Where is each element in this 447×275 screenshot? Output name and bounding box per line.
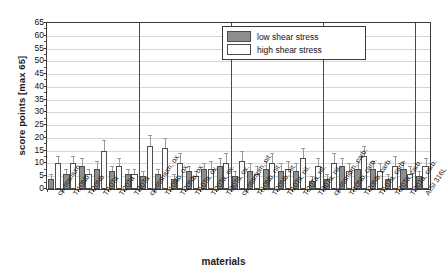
error-bar-cap	[332, 153, 336, 154]
y-tick-label: 60	[4, 31, 44, 39]
bar-low-shear	[48, 179, 54, 189]
error-bar	[165, 138, 166, 148]
error-bar	[226, 153, 227, 163]
error-bar-cap	[148, 135, 152, 136]
error-bar	[342, 158, 343, 166]
y-tick-label: 55	[4, 44, 44, 52]
error-bar-cap	[156, 169, 160, 170]
error-bar-cap	[240, 151, 244, 152]
y-tick-label: 30	[4, 107, 44, 115]
error-bar-cap	[141, 171, 145, 172]
legend-label-low: low shear stress	[257, 32, 318, 42]
bar-chart: score points [max 65] 051015202530354045…	[0, 0, 447, 275]
y-tick-label: 65	[4, 18, 44, 26]
y-axis-ticks: 05101520253035404550556065	[0, 22, 44, 190]
y-tick-label: 0	[4, 184, 44, 192]
error-bar-cap	[248, 163, 252, 164]
error-bar-cap	[80, 158, 84, 159]
legend-item-high: high shear stress	[227, 43, 361, 56]
error-bar	[303, 148, 304, 158]
error-bar	[104, 140, 105, 150]
legend-label-high: high shear stress	[257, 45, 322, 55]
error-bar-cap	[133, 169, 137, 170]
error-bar-cap	[110, 166, 114, 167]
error-bar	[220, 158, 221, 166]
error-bar	[97, 161, 98, 169]
error-bar-cap	[224, 153, 228, 154]
error-bar-cap	[49, 174, 53, 175]
error-bar-cap	[424, 158, 428, 159]
legend-swatch-low-icon	[227, 31, 251, 42]
error-bar-cap	[316, 158, 320, 159]
legend-swatch-high-icon	[227, 44, 251, 55]
error-bar-cap	[163, 138, 167, 139]
error-bar-cap	[218, 158, 222, 159]
y-tick-label: 15	[4, 146, 44, 154]
error-bar-cap	[56, 156, 60, 157]
error-bar-cap	[95, 161, 99, 162]
error-bar	[334, 153, 335, 163]
error-bar-cap	[102, 140, 106, 141]
error-bar-cap	[340, 158, 344, 159]
error-bar-cap	[87, 169, 91, 170]
error-bar-cap	[64, 169, 68, 170]
error-bar	[242, 151, 243, 161]
y-tick-label: 5	[4, 171, 44, 179]
y-tick-label: 20	[4, 133, 44, 141]
error-bar	[58, 156, 59, 164]
error-bar	[150, 135, 151, 145]
error-bar	[119, 158, 120, 166]
error-bar-cap	[126, 169, 130, 170]
legend-item-low: low shear stress	[227, 30, 361, 43]
x-axis-title: materials	[0, 256, 447, 267]
error-bar	[82, 158, 83, 166]
y-tick-label: 40	[4, 82, 44, 90]
y-tick-label: 10	[4, 158, 44, 166]
y-tick-label: 45	[4, 69, 44, 77]
y-tick-label: 25	[4, 120, 44, 128]
error-bar-cap	[117, 158, 121, 159]
x-axis-tick-labels: cp-titaniumTi10NbTi20NbTi10TaTi20TaTi30T…	[46, 192, 431, 262]
legend: low shear stress high shear stress	[222, 26, 366, 60]
error-bar-cap	[393, 156, 397, 157]
error-bar-cap	[301, 148, 305, 149]
y-tick-label: 35	[4, 95, 44, 103]
error-bar-cap	[209, 161, 213, 162]
error-bar-cap	[71, 156, 75, 157]
y-tick-label: 50	[4, 56, 44, 64]
